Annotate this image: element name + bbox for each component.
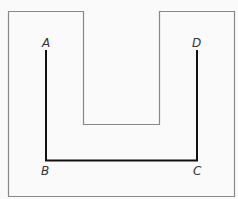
diagram-canvas: A B C D [0, 0, 238, 199]
label-b: B [41, 164, 49, 178]
label-c: C [193, 164, 202, 178]
label-a: A [41, 36, 50, 50]
label-d: D [192, 36, 201, 50]
